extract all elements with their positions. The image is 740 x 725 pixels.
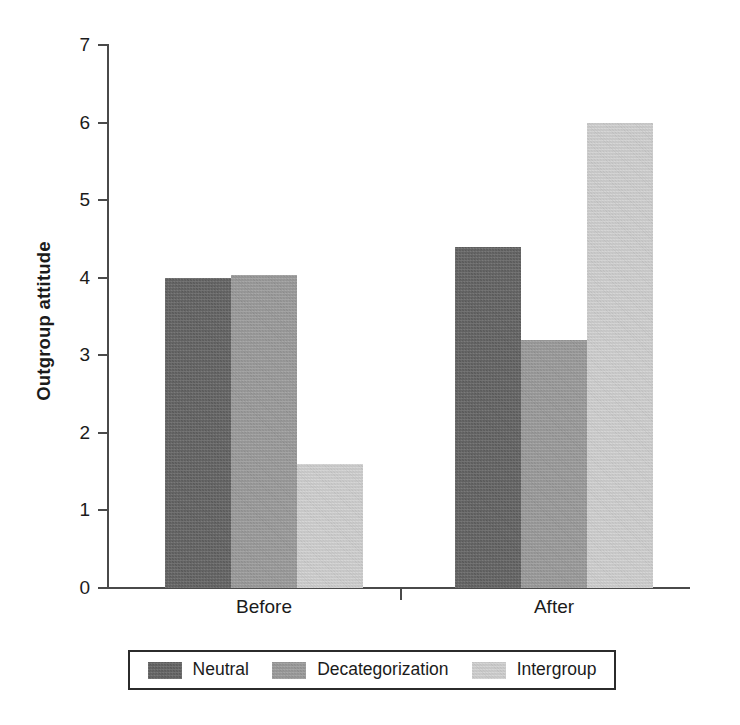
bar-before-neutral [165,278,231,588]
bar-texture [587,123,653,588]
bar-after-intergroup [587,123,653,588]
legend-label: Intergroup [517,661,597,679]
legend-item-intergroup[interactable]: Intergroup [472,661,597,679]
x-axis-label-before: Before [184,596,344,618]
y-axis-tick-label-text: 2 [79,423,90,442]
legend-label: Neutral [193,661,249,679]
y-axis-tick [98,122,108,124]
bar-texture [165,278,231,588]
y-axis-tick-label-text: 3 [79,345,90,364]
legend-swatch-texture [472,662,506,679]
y-axis-tick-label-text: 7 [79,35,90,54]
y-axis-tick-label-text: 1 [79,500,90,519]
x-axis-group-separator-tick [400,589,402,600]
y-axis-tick [98,354,108,356]
y-axis-tick-label: 3 [22,355,90,356]
legend-item-neutral[interactable]: Neutral [148,661,249,679]
legend-swatch-neutral [148,662,182,679]
y-axis-tick-label: 5 [22,200,90,201]
bar-before-intergroup [297,464,363,588]
y-axis-tick [98,587,108,589]
chart-legend: NeutralDecategorizationIntergroup [128,650,616,690]
y-axis-tick [98,199,108,201]
y-axis-tick-label: 4 [22,278,90,279]
y-axis-title: Outgroup attitude [33,201,55,441]
legend-swatch-texture [148,662,182,679]
bar-texture [297,464,363,588]
x-axis-label-after: After [474,596,634,618]
y-axis-tick [98,509,108,511]
legend-swatch-intergroup [472,662,506,679]
bar-after-neutral [455,247,521,588]
legend-label: Decategorization [317,661,448,679]
y-axis-tick-label-text: 6 [79,113,90,132]
legend-swatch-decategorization [272,662,306,679]
bar-before-decategorization [231,275,297,588]
bar-texture [231,275,297,588]
bar-after-decategorization [521,340,587,588]
y-axis-tick-label: 1 [22,510,90,511]
y-axis-tick [98,44,108,46]
legend-item-decategorization[interactable]: Decategorization [272,661,448,679]
bar-chart-figure: Outgroup attitude 01234567 BeforeAfter N… [0,0,740,725]
y-axis-tick-label: 2 [22,433,90,434]
y-axis-tick-label-text: 0 [79,578,90,597]
y-axis-tick-label-text: 5 [79,190,90,209]
bar-texture [455,247,521,588]
y-axis-tick-label: 6 [22,123,90,124]
y-axis-tick-label-text: 4 [79,268,90,287]
y-axis-tick-label: 7 [22,45,90,46]
legend-swatch-texture [272,662,306,679]
bar-texture [521,340,587,588]
y-axis-line [107,44,109,589]
y-axis-tick-label: 0 [22,588,90,589]
y-axis-tick [98,432,108,434]
y-axis-tick [98,277,108,279]
